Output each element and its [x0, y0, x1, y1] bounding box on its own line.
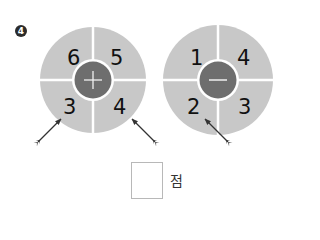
wheel-plus: 6 5 3 4	[40, 27, 146, 133]
answer-unit-label: 점	[170, 170, 183, 190]
wheel-minus-top-left: 1	[190, 46, 203, 70]
wheel-plus-bottom-left: 3	[63, 95, 76, 119]
dart-arrow-icon	[38, 119, 61, 142]
wheel-minus-bottom-left: 2	[187, 95, 200, 119]
wheel-plus-top-left: 6	[67, 46, 80, 70]
wheel-minus-top-right: 4	[237, 46, 250, 70]
wheel-plus-top-right: 5	[110, 46, 123, 70]
wheel-minus: 1 4 2 3	[163, 25, 273, 135]
dart-arrow-icon	[132, 119, 155, 142]
answer-input-box[interactable]	[131, 162, 163, 199]
wheel-plus-bottom-right: 4	[113, 95, 126, 119]
wheel-minus-bottom-right: 3	[238, 95, 251, 119]
